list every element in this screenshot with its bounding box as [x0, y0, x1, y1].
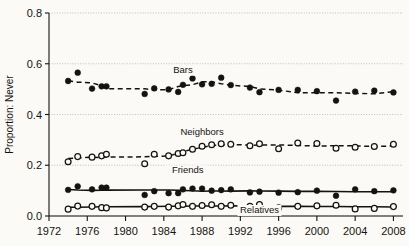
data-point [209, 188, 215, 194]
data-point [391, 90, 397, 96]
data-point [65, 187, 71, 193]
data-point [218, 141, 224, 147]
y-tick-label: 0.4 [27, 109, 42, 121]
data-point [218, 203, 224, 209]
chart-container: 0.00.20.40.60.81972197619801984198819921… [0, 0, 409, 246]
data-point [65, 159, 71, 165]
data-point [352, 206, 358, 212]
data-point [352, 144, 358, 150]
data-point [142, 161, 148, 167]
data-point [257, 189, 263, 195]
data-point [247, 190, 253, 196]
data-point [391, 204, 397, 210]
y-tick-label: 0.0 [27, 210, 42, 222]
data-point [166, 153, 172, 159]
data-point [104, 83, 110, 89]
data-point [104, 151, 110, 157]
data-point [391, 187, 397, 193]
data-point [276, 87, 282, 93]
y-tick-label: 0.6 [27, 58, 42, 70]
data-point [89, 186, 95, 192]
data-point [209, 202, 215, 208]
series-label-neighbors: Neighbors [180, 126, 224, 137]
x-tick-label: 1972 [37, 225, 61, 237]
x-tick-label: 2000 [305, 225, 329, 237]
y-tick-label: 0.8 [27, 7, 42, 19]
data-point [65, 206, 71, 212]
data-point [75, 203, 81, 209]
data-point [142, 192, 148, 198]
data-point [314, 141, 320, 147]
data-point [199, 143, 205, 149]
chart-background [0, 0, 409, 246]
x-tick-label: 1980 [113, 225, 137, 237]
data-point [333, 98, 339, 104]
data-point [75, 183, 81, 189]
data-point [180, 82, 186, 88]
data-point [295, 140, 301, 146]
data-point [190, 186, 196, 192]
data-point [190, 76, 196, 82]
data-point [190, 146, 196, 152]
x-tick-label: 1984 [152, 225, 176, 237]
data-point [65, 78, 71, 84]
data-point [257, 141, 263, 147]
series-label-bars: Bars [173, 64, 193, 75]
data-point [352, 89, 358, 95]
data-point [151, 85, 157, 91]
data-point [333, 145, 339, 151]
data-point [180, 150, 186, 156]
data-point [209, 81, 215, 87]
data-point [276, 190, 282, 196]
data-point [352, 186, 358, 192]
data-point [371, 188, 377, 194]
data-point [166, 204, 172, 210]
data-point [89, 203, 95, 209]
data-point [104, 185, 110, 191]
data-point [75, 154, 81, 160]
data-point [218, 187, 224, 193]
data-point [257, 89, 263, 95]
data-point [180, 202, 186, 208]
data-point [166, 86, 172, 92]
data-point [180, 186, 186, 192]
data-point [276, 146, 282, 152]
x-tick-label: 1996 [266, 225, 290, 237]
data-point [228, 202, 234, 208]
data-point [371, 144, 377, 150]
y-axis-title: Proportion: Never [4, 75, 15, 154]
data-point [228, 141, 234, 147]
series-label-friends: Friends [172, 164, 204, 175]
series-label-relatives: Relatives [240, 204, 279, 215]
data-point [89, 86, 95, 92]
data-point [142, 204, 148, 210]
data-point [295, 189, 301, 195]
x-tick-label: 1976 [75, 225, 99, 237]
x-tick-label: 1992 [228, 225, 252, 237]
x-tick-label: 1988 [190, 225, 214, 237]
data-point [175, 190, 181, 196]
data-point [371, 205, 377, 211]
data-point [151, 188, 157, 194]
data-point [199, 81, 205, 87]
data-point [199, 186, 205, 192]
data-point [371, 88, 377, 94]
data-point [333, 202, 339, 208]
data-point [247, 143, 253, 149]
data-point [175, 89, 181, 95]
x-tick-label: 2008 [381, 225, 405, 237]
data-point [247, 85, 253, 91]
data-point [333, 193, 339, 199]
data-point [228, 186, 234, 192]
data-point [166, 190, 172, 196]
data-point [151, 151, 157, 157]
data-point [295, 203, 301, 209]
data-point [314, 188, 320, 194]
data-point [228, 82, 234, 88]
data-point [314, 203, 320, 209]
data-point [209, 142, 215, 148]
x-tick-label: 2004 [343, 225, 367, 237]
data-point [199, 203, 205, 209]
data-point [142, 91, 148, 97]
data-point [89, 154, 95, 160]
